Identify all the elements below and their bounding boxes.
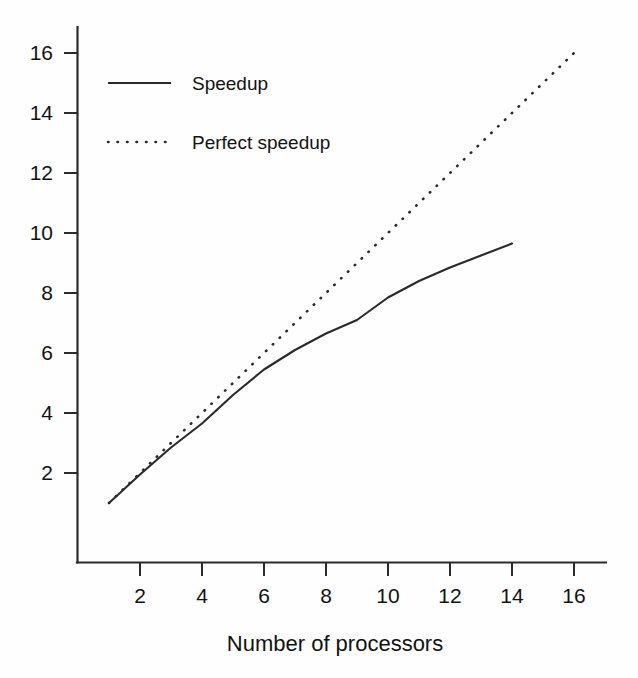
axes-spines	[77, 27, 606, 563]
x-tick-label: 16	[562, 584, 585, 607]
x-axis-tick-labels: 246810121416	[134, 584, 586, 607]
y-tick-label: 6	[41, 341, 53, 364]
y-axis-tick-labels: 246810121416	[30, 41, 54, 484]
x-tick-label: 14	[500, 584, 524, 607]
y-tick-label: 4	[41, 401, 53, 424]
x-axis-title: Number of processors	[227, 631, 443, 656]
y-tick-label: 8	[41, 281, 53, 304]
data-series-group	[109, 53, 574, 503]
x-axis-ticks	[140, 562, 574, 576]
y-tick-label: 14	[30, 101, 54, 124]
speedup-line-chart: 246810121416 246810121416 Speedup Perfec…	[0, 0, 638, 678]
y-tick-label: 12	[30, 161, 53, 184]
y-tick-label: 10	[30, 221, 53, 244]
x-tick-label: 6	[258, 584, 270, 607]
x-tick-label: 12	[438, 584, 461, 607]
legend-label-perfect-speedup: Perfect speedup	[192, 132, 330, 153]
y-axis-ticks	[64, 53, 78, 473]
y-tick-label: 2	[41, 461, 53, 484]
x-tick-label: 4	[196, 584, 208, 607]
series-line-speedup	[109, 244, 512, 504]
y-tick-label: 16	[30, 41, 53, 64]
x-tick-label: 2	[134, 584, 146, 607]
legend: Speedup Perfect speedup	[108, 73, 330, 153]
series-line-perfect-speedup	[109, 53, 574, 503]
x-tick-label: 10	[376, 584, 399, 607]
figure-canvas: 246810121416 246810121416 Speedup Perfec…	[0, 0, 638, 678]
x-tick-label: 8	[320, 584, 332, 607]
legend-label-speedup: Speedup	[192, 73, 268, 94]
